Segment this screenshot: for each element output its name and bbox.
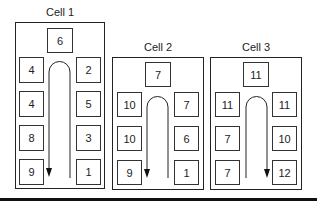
bottom-divider xyxy=(0,198,317,201)
cell-3-flow-arrow-icon xyxy=(0,0,317,201)
